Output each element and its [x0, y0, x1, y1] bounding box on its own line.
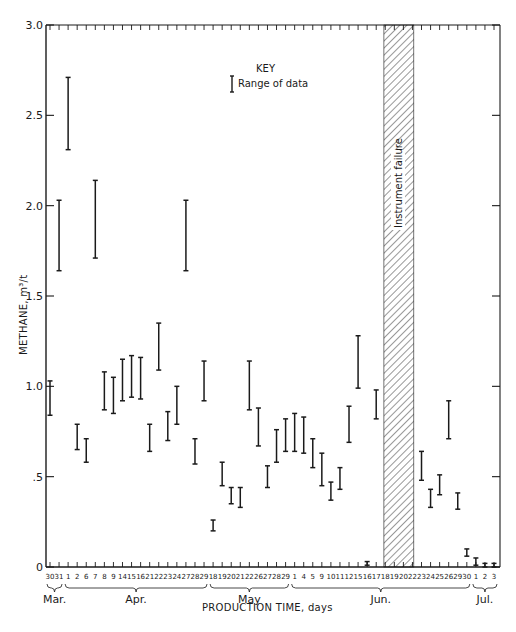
range-bar	[492, 563, 497, 567]
range-bar	[120, 359, 125, 401]
x-tick-label: 24	[172, 573, 181, 581]
x-tick-label: 1	[292, 573, 296, 581]
x-tick-label: 18	[209, 573, 218, 581]
range-bar	[464, 549, 469, 556]
instrument-failure-region	[384, 25, 414, 567]
x-tick-label: 31	[55, 573, 64, 581]
range-bar	[428, 489, 433, 507]
range-bar	[84, 439, 89, 462]
x-tick-label: 27	[181, 573, 190, 581]
range-bar	[283, 419, 288, 452]
y-tick-label: 2.5	[26, 109, 44, 122]
x-tick-label: 2	[483, 573, 487, 581]
range-bar	[111, 377, 116, 413]
x-tick-label: 15	[127, 573, 136, 581]
y-tick-label: .5	[33, 471, 44, 484]
range-bar	[202, 361, 207, 401]
x-tick-label: 30	[462, 573, 471, 581]
instrument-failure-annotation: Instrument failure	[391, 138, 405, 230]
x-tick-label: 15	[354, 573, 363, 581]
range-bar	[455, 493, 460, 509]
x-tick-label: 19	[390, 573, 399, 581]
range-bar	[183, 200, 188, 270]
x-tick-label: 14	[118, 573, 127, 581]
range-bar	[292, 413, 297, 451]
x-tick-label: 22	[154, 573, 163, 581]
range-bar	[66, 77, 71, 149]
x-tick-label: 29	[281, 573, 290, 581]
y-tick-label: 1.0	[26, 380, 44, 393]
x-tick-label: 5	[311, 573, 315, 581]
range-bar	[238, 488, 243, 508]
range-bar	[102, 372, 107, 410]
range-bar	[446, 401, 451, 439]
x-tick-label: 10	[326, 573, 335, 581]
x-tick-label: 18	[381, 573, 390, 581]
range-bar	[192, 439, 197, 464]
range-bar	[319, 453, 324, 486]
range-bar	[437, 475, 442, 495]
month-label: Apr.	[125, 593, 147, 606]
x-tick-label: 16	[363, 573, 372, 581]
instrument-failure-label: Instrument failure	[393, 138, 404, 228]
range-bar	[165, 412, 170, 441]
range-bar	[229, 488, 234, 504]
range-bar	[256, 408, 261, 446]
range-bar	[482, 563, 487, 567]
x-tick-label: 11	[335, 573, 344, 581]
range-bar	[419, 451, 424, 480]
range-bar	[365, 562, 370, 566]
range-bars	[48, 77, 497, 567]
range-bar	[337, 468, 342, 490]
range-bar	[301, 417, 306, 453]
x-tick-label: 27	[263, 573, 272, 581]
y-tick-label: 3.0	[26, 19, 44, 32]
x-tick-label: 20	[399, 573, 408, 581]
key-title: KEY	[256, 63, 276, 74]
month-label: Mar.	[43, 593, 66, 606]
axes	[46, 25, 500, 567]
x-tick-label: 28	[191, 573, 200, 581]
key-entry: Range of data	[238, 78, 308, 89]
x-tick-label: 29	[453, 573, 462, 581]
range-bar	[473, 558, 478, 565]
month-brace	[473, 584, 497, 592]
month-brace	[210, 584, 288, 592]
x-tick-label: 19	[218, 573, 227, 581]
range-bar	[274, 430, 279, 463]
range-bar	[211, 520, 216, 531]
range-bar	[156, 323, 161, 370]
y-tick-label: 0	[36, 561, 43, 574]
range-bar	[265, 466, 270, 488]
y-tick-label: 2.0	[26, 200, 44, 213]
x-tick-label: 29	[200, 573, 209, 581]
methane-range-chart: 0.51.01.52.02.53.03031126789141516212223…	[0, 0, 516, 632]
month-label: Jun.	[369, 593, 391, 606]
x-tick-label: 21	[145, 573, 154, 581]
range-bar	[174, 386, 179, 424]
range-bar	[356, 336, 361, 388]
range-bar	[247, 361, 252, 410]
x-tick-label: 21	[236, 573, 245, 581]
x-tick-label: 20	[227, 573, 236, 581]
x-tick-label: 4	[301, 573, 306, 581]
hatched-region	[384, 25, 414, 567]
x-tick-label: 9	[320, 573, 324, 581]
x-tick-label: 23	[417, 573, 426, 581]
x-tick-label: 12	[345, 573, 354, 581]
range-bar	[147, 424, 152, 451]
x-axis-title: PRODUCTION TIME, days	[202, 602, 333, 613]
x-tick-label: 25	[435, 573, 444, 581]
x-tick-label: 16	[136, 573, 145, 581]
legend-key: KEY Range of data	[230, 63, 308, 92]
x-tick-label: 3	[492, 573, 496, 581]
month-brace	[292, 584, 470, 592]
range-bar	[347, 406, 352, 442]
month-label: Jul.	[476, 593, 494, 606]
x-tick-label: 22	[245, 573, 254, 581]
month-brace	[47, 584, 62, 592]
x-tick-label: 8	[102, 573, 106, 581]
x-tick-label: 9	[111, 573, 115, 581]
x-tick-label: 26	[254, 573, 263, 581]
range-bar	[310, 439, 315, 468]
